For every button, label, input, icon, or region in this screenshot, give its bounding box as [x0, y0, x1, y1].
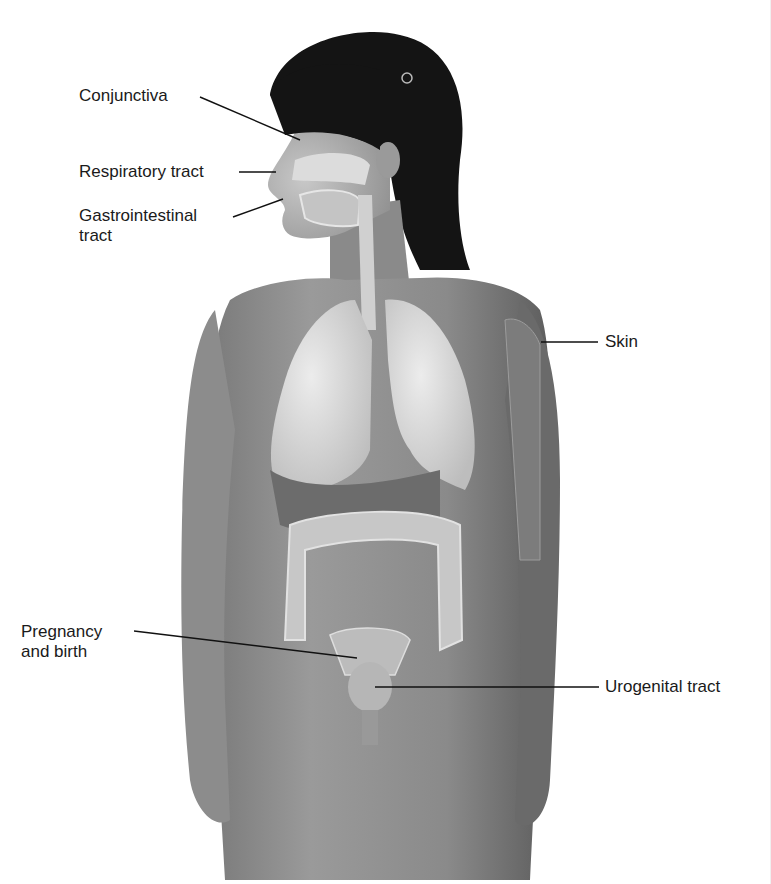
oral-cavity: [300, 190, 360, 226]
label-respiratory-tract: Respiratory tract: [79, 162, 204, 182]
label-gastrointestinal-tract: Gastrointestinal tract: [79, 206, 197, 246]
nasal-cavity: [292, 153, 370, 185]
label-conjunctiva: Conjunctiva: [79, 86, 168, 106]
label-pregnancy-and-birth: Pregnancy and birth: [21, 622, 102, 662]
torso: [209, 277, 550, 880]
urethra: [362, 710, 378, 745]
label-skin: Skin: [605, 332, 638, 352]
anatomy-diagram: Conjunctiva Respiratory tract Gastrointe…: [0, 0, 771, 884]
body-illustration: [0, 0, 771, 884]
leader-gastrointestinal: [233, 199, 283, 217]
label-urogenital-tract: Urogenital tract: [605, 677, 720, 697]
